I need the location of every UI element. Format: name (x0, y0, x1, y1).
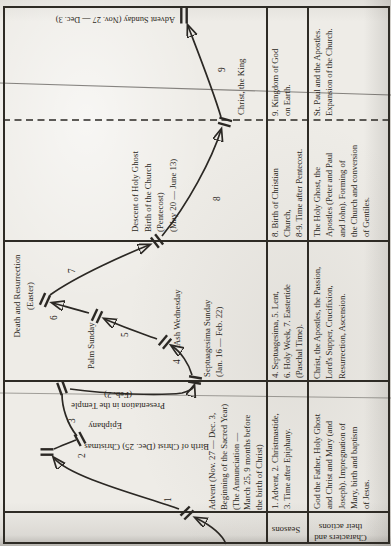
characters-cell-pentecost: The Holy Ghost, the Apostles (Peter and … (311, 123, 372, 237)
label-presentation: Presentation in the Temple (Feb. 2) (62, 389, 174, 411)
arc-7-eastertide (50, 245, 149, 295)
label-epiphany: Epiphany (80, 419, 122, 431)
characters-cell-advent: God the Father, Holy Ghost and Christ an… (311, 384, 372, 509)
tick-septuagesima-icon (188, 376, 202, 384)
seasons-cell-kingdom: 9. Kingdom of God on Earth. (269, 10, 293, 116)
arc-5-lent (105, 319, 157, 339)
segment-number-3: 3 (68, 418, 77, 423)
segment-number-5: 5 (121, 332, 130, 337)
segment-number-8: 8 (213, 196, 222, 201)
tick-advent-end-icon (181, 7, 186, 24)
segment-number-2: 2 (78, 453, 87, 458)
label-pentecost: Descent of Holy Ghost Birth of the Churc… (129, 132, 179, 232)
tick-easter-icon (40, 293, 50, 307)
timeline-entry-curve (196, 518, 226, 544)
label-ash-wednesday: Ash Wednesday (172, 276, 184, 346)
seasons-cell-advent: 1. Advent, 2. Christmastide, 3. Time aft… (269, 384, 293, 509)
label-christmas: Birth of Christ (Dec. 25) Christmas (57, 440, 209, 452)
tick-advent-start-icon (180, 506, 193, 519)
tick-christmas-icon (41, 449, 54, 454)
segment-number-4: 4 (173, 359, 182, 364)
segment-number-9: 9 (218, 67, 227, 72)
church-year-diagram: 1 2 3 4 5 6 7 8 9 Birth of Christ (Dec. … (0, 0, 391, 546)
seasons-cell-pentecost: 8. Birth of Christian Church, 8-9. Time … (269, 123, 305, 237)
row-header-characters: Characters and their actions (306, 520, 376, 543)
label-palm-sunday: Palm Sunday (86, 313, 98, 369)
row-header-seasons: Seasons (264, 523, 308, 535)
arc-1-advent (54, 458, 179, 509)
label-easter: Death and Resurrection (Easter) (11, 243, 36, 349)
seasons-cell-lent-easter: 4. Septuagesima, 5. Lent, 6. Holy Week, … (269, 244, 305, 378)
label-christ-king: Christ, the King (236, 43, 248, 115)
label-advent-sunday: Advent Sunday (Nov. 27 — Dec. 3) (53, 13, 175, 25)
tick-christ-king-icon (218, 118, 232, 127)
segment-number-1: 1 (164, 497, 173, 502)
segment-number-6: 6 (50, 315, 59, 320)
arc-6-holy-week (53, 303, 89, 313)
segment-number-7: 7 (68, 268, 77, 273)
characters-cell-kingdom: St. Paul and the Apostles. Expansion of … (311, 10, 336, 116)
scanned-book-page: 1 2 3 4 5 6 7 8 9 Birth of Christ (Dec. … (0, 0, 391, 546)
label-septuagesima: Septuagesima Sunday (Jan. 16 — Feb. 22) (202, 277, 225, 377)
tick-ash-wednesday-icon (159, 335, 171, 348)
tick-pentecost-icon (151, 234, 163, 248)
characters-cell-lent-easter: Christ, the Apostles, the Passion, Lord'… (311, 242, 348, 379)
advent-season-note: Advent (Nov. 27 — Dec. 3, Beginning of t… (207, 374, 266, 510)
